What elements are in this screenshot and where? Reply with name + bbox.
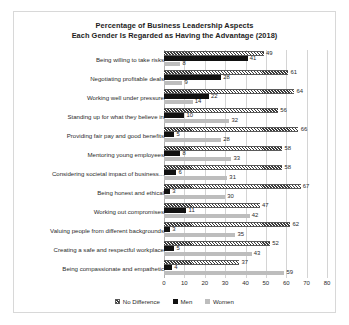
x-axis-tick: 70 <box>303 280 310 286</box>
bar-value-label: 66 <box>301 127 308 133</box>
category-label: Working well under pressure <box>20 90 164 105</box>
bar-women <box>164 138 221 142</box>
chart-row: Considering societal impact of business.… <box>14 164 335 183</box>
bar-nd <box>164 51 264 55</box>
bar-value-label: 64 <box>297 89 304 95</box>
bar-value-label: 49 <box>266 51 273 57</box>
bar-value-label: 33 <box>233 156 240 162</box>
bar-women <box>164 176 227 180</box>
bar-nd <box>164 127 298 131</box>
bar-group: 61289 <box>164 69 327 88</box>
bar-value-label: 9 <box>185 80 188 86</box>
bar-group: 49418 <box>164 50 327 69</box>
chart-row: Standing up for what they believe in5610… <box>14 107 335 126</box>
bar-men <box>164 113 184 117</box>
chart-figure: Percentage of Business Leadership Aspect… <box>13 11 336 313</box>
bar-women <box>164 195 225 199</box>
chart-row: Being compassionate and empathetic37459 <box>14 259 335 278</box>
bar-women <box>164 119 229 123</box>
bar-women <box>164 214 250 218</box>
plot-area: Being willing to take risks49418Negotiat… <box>14 50 335 278</box>
bar-value-label: 28 <box>223 137 230 143</box>
bar-group: 58833 <box>164 145 327 164</box>
bar-men <box>164 227 170 231</box>
bar-group: 66528 <box>164 126 327 145</box>
bar-nd <box>164 146 282 150</box>
chart-row: Being honest and ethical67330 <box>14 183 335 202</box>
category-label: Working out compromises <box>20 204 164 219</box>
bar-value-label: 22 <box>211 94 218 100</box>
chart-row: Valuing people from different background… <box>14 221 335 240</box>
bar-group: 471142 <box>164 202 327 221</box>
category-label: Mentoring young employees <box>20 147 164 162</box>
bar-value-label: 52 <box>272 241 279 247</box>
bar-value-label: 32 <box>231 118 238 124</box>
chart-row: Working out compromises471142 <box>14 202 335 221</box>
bar-value-label: 41 <box>250 56 257 62</box>
bar-value-label: 56 <box>280 108 287 114</box>
bar-group: 62335 <box>164 221 327 240</box>
x-axis-tick: 30 <box>222 280 229 286</box>
legend-swatch-women-icon <box>205 299 210 304</box>
bar-value-label: 28 <box>223 75 230 81</box>
bar-value-label: 30 <box>227 194 234 200</box>
legend-swatch-men-icon <box>173 299 178 304</box>
bar-value-label: 62 <box>293 222 300 228</box>
x-axis-tick: 80 <box>324 280 331 286</box>
bar-men <box>164 265 172 269</box>
legend-label: Women <box>213 298 234 305</box>
bar-women <box>164 62 180 66</box>
bar-value-label: 31 <box>229 175 236 181</box>
bar-group: 37459 <box>164 259 327 278</box>
bar-value-label: 58 <box>284 146 291 152</box>
bar-value-label: 8 <box>183 61 186 67</box>
category-label: Valuing people from different background… <box>20 223 164 238</box>
chart-title-line-2: Each Gender Is Regarded as Having the Ad… <box>14 31 335 41</box>
chart-row: Creating a safe and respectful workplace… <box>14 240 335 259</box>
bar-value-label: 58 <box>284 165 291 171</box>
legend-swatch-nd-icon <box>115 299 120 304</box>
legend-item-nd[interactable]: No Difference <box>115 298 160 305</box>
bar-women <box>164 81 182 85</box>
bar-men <box>164 170 176 174</box>
bar-value-label: 67 <box>303 184 310 190</box>
x-axis-tick: 60 <box>283 280 290 286</box>
bar-men <box>164 151 180 155</box>
bar-women <box>164 252 252 256</box>
bar-value-label: 37 <box>242 260 249 266</box>
chart-row: Mentoring young employees58833 <box>14 145 335 164</box>
bar-women <box>164 100 193 104</box>
chart-row: Being willing to take risks49418 <box>14 50 335 69</box>
bar-group: 58631 <box>164 164 327 183</box>
x-axis-tick: 0 <box>162 280 165 286</box>
bar-men <box>164 94 209 98</box>
bar-value-label: 47 <box>262 203 269 209</box>
bar-value-label: 35 <box>238 232 245 238</box>
bar-value-label: 61 <box>290 70 297 76</box>
bar-group: 67330 <box>164 183 327 202</box>
bar-women <box>164 233 235 237</box>
bar-men <box>164 75 221 79</box>
bar-value-label: 59 <box>286 270 293 276</box>
bar-group: 642214 <box>164 88 327 107</box>
legend-item-men[interactable]: Men <box>173 298 192 305</box>
chart-title-line-1: Percentage of Business Leadership Aspect… <box>14 21 335 31</box>
legend-label: No Difference <box>123 298 160 305</box>
x-axis-tick: 20 <box>201 280 208 286</box>
bar-men <box>164 189 170 193</box>
bar-nd <box>164 89 294 93</box>
chart-row: Negotiating profitable deals61289 <box>14 69 335 88</box>
bar-value-label: 42 <box>252 213 259 219</box>
bar-men <box>164 132 174 136</box>
category-label: Being compassionate and empathetic <box>20 261 164 276</box>
x-axis: 01020304050607080 <box>14 278 335 292</box>
bar-women <box>164 157 231 161</box>
legend-label: Men <box>181 298 193 305</box>
category-label: Standing up for what they believe in <box>20 109 164 124</box>
legend-item-women[interactable]: Women <box>205 298 233 305</box>
bar-men <box>164 246 174 250</box>
chart-row: Working well under pressure642214 <box>14 88 335 107</box>
bar-value-label: 14 <box>195 99 202 105</box>
chart-row: Providing fair pay and good benefits6652… <box>14 126 335 145</box>
x-axis-tick: 10 <box>181 280 188 286</box>
